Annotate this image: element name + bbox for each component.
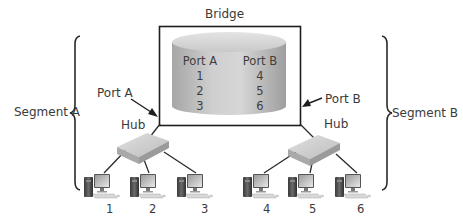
- computer-4-icon: [243, 174, 279, 198]
- computer-3-icon: [177, 174, 213, 198]
- computer-5-icon: [288, 174, 324, 198]
- computer-4-label: 4: [263, 204, 270, 216]
- hub-a-label: Hub: [121, 119, 145, 131]
- port-b-label: Port B: [325, 93, 361, 105]
- segment-a-label: Segment A: [14, 106, 80, 118]
- computer-2-icon: [130, 174, 166, 198]
- bridge-title: Bridge: [205, 8, 244, 20]
- hub-b-label: Hub: [324, 118, 348, 130]
- bridge-cell: 3: [180, 101, 220, 113]
- computer-1-icon: [84, 174, 120, 198]
- port-a-label: Port A: [97, 87, 133, 99]
- port-b-arrow: [302, 98, 322, 107]
- computer-5-label: 5: [309, 204, 316, 216]
- bridge-cell: 2: [180, 86, 220, 98]
- bridge-cell: 5: [240, 86, 280, 98]
- computer-1-label: 1: [106, 204, 113, 216]
- computer-2-label: 2: [149, 204, 156, 216]
- computer-3-label: 3: [201, 204, 208, 216]
- bridge-header-port-a: Port A: [178, 56, 222, 68]
- bridge-header-port-b: Port B: [238, 56, 282, 68]
- computer-6-label: 6: [357, 204, 364, 216]
- hub-b-icon: [288, 135, 340, 166]
- bridge-cell: 4: [240, 71, 280, 83]
- port-a-arrow: [131, 99, 158, 117]
- computer-6-icon: [335, 174, 371, 198]
- segment-b-brace: [382, 36, 392, 190]
- segment-b-label: Segment B: [392, 107, 458, 119]
- bridge-cell: 6: [240, 101, 280, 113]
- bridge-cell: 1: [180, 71, 220, 83]
- hub-a-icon: [117, 133, 169, 164]
